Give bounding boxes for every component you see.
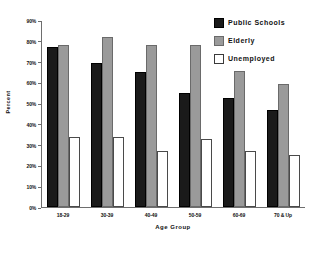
x-axis-tick-label: 70 & Up bbox=[261, 208, 305, 218]
y-axis-tick-label: 40% bbox=[27, 122, 38, 128]
legend-item: Elderly bbox=[214, 35, 314, 46]
bar bbox=[201, 139, 212, 207]
bar-group bbox=[179, 21, 212, 207]
bar bbox=[289, 155, 300, 207]
y-axis-tick-label: 60% bbox=[27, 80, 38, 86]
y-axis-tick-label: 20% bbox=[27, 163, 38, 169]
y-axis-tick-label: 50% bbox=[27, 101, 38, 107]
legend-label: Public Schools bbox=[228, 19, 285, 26]
y-axis-tick: 20% bbox=[27, 161, 41, 171]
y-axis-tick: 60% bbox=[27, 78, 41, 88]
x-axis-ticks: 18-2930-3940-4950-5960-6970 & Up bbox=[41, 208, 305, 222]
bar-group bbox=[47, 21, 80, 207]
x-axis-title: Age Group bbox=[41, 224, 305, 230]
bar bbox=[223, 98, 234, 207]
y-axis-tick: 50% bbox=[27, 99, 41, 109]
legend-swatch bbox=[214, 54, 224, 64]
x-axis-tick-label: 30-39 bbox=[85, 208, 129, 218]
y-axis-tick: 40% bbox=[27, 120, 41, 130]
legend: Public SchoolsElderlyUnemployed bbox=[214, 17, 314, 71]
bar bbox=[245, 151, 256, 207]
bar bbox=[179, 93, 190, 207]
bar bbox=[157, 151, 168, 207]
y-axis-tick: 0% bbox=[29, 203, 41, 213]
bar bbox=[47, 47, 58, 207]
bar bbox=[58, 45, 69, 207]
y-axis-ticks: 90%80%70%60%50%40%30%20%10%0% bbox=[0, 21, 41, 208]
bar bbox=[69, 137, 80, 207]
y-axis-tick: 30% bbox=[27, 141, 41, 151]
y-axis-tick-label: 0% bbox=[29, 205, 38, 211]
bar bbox=[91, 63, 102, 207]
bar-group bbox=[91, 21, 124, 207]
bar bbox=[278, 84, 289, 207]
y-axis-tick-label: 80% bbox=[27, 39, 38, 45]
y-axis-tick: 70% bbox=[27, 58, 41, 68]
legend-swatch bbox=[214, 18, 224, 28]
legend-item: Unemployed bbox=[214, 53, 314, 64]
x-axis-tick-label: 18-29 bbox=[41, 208, 85, 218]
x-axis-tick-label: 40-49 bbox=[129, 208, 173, 218]
y-axis-tick: 90% bbox=[27, 16, 41, 26]
y-axis-tick-label: 90% bbox=[27, 18, 38, 24]
y-axis-tick: 10% bbox=[27, 182, 41, 192]
y-axis-tick-label: 10% bbox=[27, 184, 38, 190]
bar bbox=[102, 37, 113, 207]
x-axis-tick-label: 60-69 bbox=[217, 208, 261, 218]
y-axis-tick-label: 30% bbox=[27, 143, 38, 149]
bar bbox=[267, 110, 278, 207]
legend-swatch bbox=[214, 36, 224, 46]
bar bbox=[234, 71, 245, 207]
y-axis-tick: 80% bbox=[27, 37, 41, 47]
bar bbox=[190, 45, 201, 207]
bar-chart: Percent 90%80%70%60%50%40%30%20%10%0% 18… bbox=[0, 0, 319, 259]
x-axis-tick-label: 50-59 bbox=[173, 208, 217, 218]
bar bbox=[113, 137, 124, 207]
bar bbox=[146, 45, 157, 207]
legend-label: Unemployed bbox=[228, 55, 275, 62]
legend-label: Elderly bbox=[228, 37, 255, 44]
bar-group bbox=[135, 21, 168, 207]
legend-item: Public Schools bbox=[214, 17, 314, 28]
y-axis-tick-label: 70% bbox=[27, 60, 38, 66]
bar bbox=[135, 72, 146, 207]
